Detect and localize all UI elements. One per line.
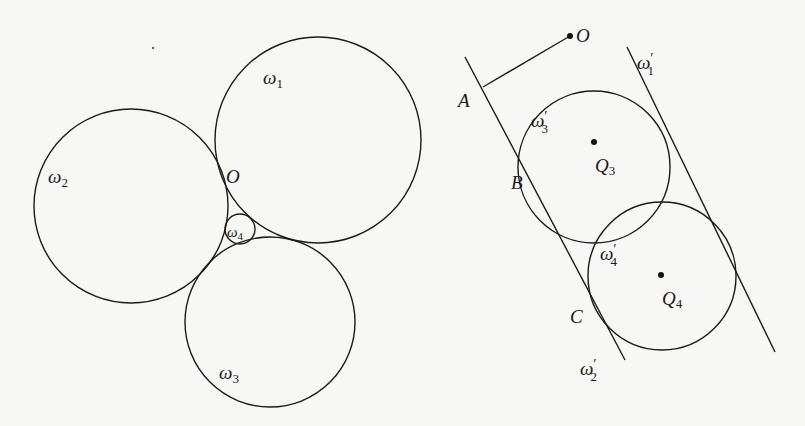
inversion-diagram: ω1 ω2 ω3 ω4 O O A B C ω′1 ω′2 ω′3 ω′4 Q3… <box>0 0 805 426</box>
label-omega4-prime: ω′4 <box>600 242 617 269</box>
label-omega2-prime: ω′2 <box>580 357 597 384</box>
label-point-B: B <box>511 172 523 193</box>
label-omega3-prime: ω′3 <box>531 109 548 136</box>
label-Q4: Q4 <box>662 288 683 311</box>
label-point-C: C <box>570 306 583 327</box>
line-omega2-prime <box>465 57 625 360</box>
label-point-O-right: O <box>576 25 590 46</box>
diagram-svg: ω1 ω2 ω3 ω4 O O A B C ω′1 ω′2 ω′3 ω′4 Q3… <box>0 0 805 426</box>
label-point-A: A <box>456 90 470 111</box>
label-Q3: Q3 <box>595 155 615 178</box>
label-omega2: ω2 <box>48 166 68 190</box>
point-O-dot <box>567 33 573 39</box>
circle-omega2 <box>34 109 228 303</box>
circle-omega1 <box>215 37 421 243</box>
segment-OA <box>483 36 570 87</box>
label-omega1: ω1 <box>263 67 283 91</box>
right-panel: O A B C ω′1 ω′2 ω′3 ω′4 Q3 Q4 <box>456 25 775 384</box>
line-omega1-prime <box>627 47 775 352</box>
left-panel: ω1 ω2 ω3 ω4 O <box>34 37 421 407</box>
label-point-O-left: O <box>226 166 240 187</box>
label-omega4: ω4 <box>227 224 244 242</box>
label-omega3: ω3 <box>219 362 239 386</box>
point-Q3-dot <box>591 139 597 145</box>
stray-dot <box>152 47 154 49</box>
point-Q4-dot <box>658 272 664 278</box>
